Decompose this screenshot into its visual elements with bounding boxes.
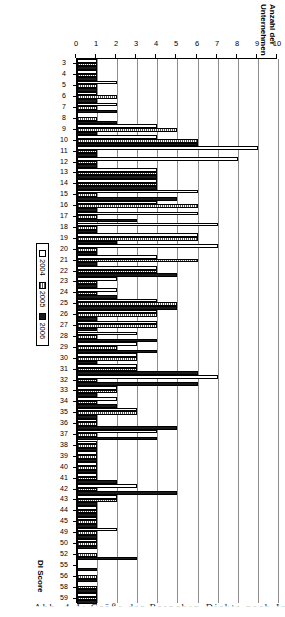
bar-2004-18 (77, 223, 218, 227)
y-tick-label: 1 (88, 40, 104, 48)
x-tick-label: 33 (56, 386, 72, 394)
bar-group (77, 70, 277, 81)
x-tick-mark (73, 380, 76, 381)
x-tick-mark (73, 576, 76, 577)
x-tick-mark (73, 205, 76, 206)
x-tick-label: 26 (56, 310, 72, 318)
chart-legend: 200420052006 (36, 243, 49, 346)
bar-group (77, 103, 277, 114)
x-tick-mark (73, 445, 76, 446)
y-tick-label: 6 (189, 40, 205, 48)
bar-group (77, 550, 277, 561)
x-tick-label: 16 (56, 201, 72, 209)
bar-group (77, 484, 277, 495)
bar-group (77, 59, 277, 70)
bar-group (77, 353, 277, 364)
x-tick-label: 9 (56, 125, 72, 133)
x-tick-mark (73, 554, 76, 555)
bar-group (77, 223, 277, 234)
y-tick-label: 4 (148, 40, 164, 48)
legend-item-2005: 2005 (38, 282, 47, 308)
x-tick-mark (73, 74, 76, 75)
x-tick-mark (73, 325, 76, 326)
bar-group (77, 114, 277, 125)
bar-group (77, 408, 277, 419)
x-tick-mark (73, 347, 76, 348)
legend-swatch-2005 (39, 282, 46, 289)
x-tick-mark (73, 63, 76, 64)
x-tick-mark (73, 314, 76, 315)
legend-label-2004: 2004 (38, 259, 47, 276)
y-tick-mark (236, 54, 237, 58)
x-tick-mark (73, 194, 76, 195)
legend-swatch-2006 (39, 313, 46, 320)
x-tick-mark (73, 162, 76, 163)
x-tick-label: 52 (56, 550, 72, 558)
x-tick-mark (73, 587, 76, 588)
x-tick-label: 21 (56, 256, 72, 264)
bar-group (77, 430, 277, 441)
x-tick-label: 49 (56, 528, 72, 536)
bar-group (77, 288, 277, 299)
x-tick-mark (73, 238, 76, 239)
bar-group (77, 560, 277, 571)
x-tick-label: 58 (56, 583, 72, 591)
x-tick-mark (73, 303, 76, 304)
x-tick-mark (73, 390, 76, 391)
x-tick-label: 6 (56, 92, 72, 100)
bar-group (77, 92, 277, 103)
bar-group (77, 571, 277, 582)
x-tick-mark (73, 521, 76, 522)
bar-group (77, 539, 277, 550)
x-tick-mark (73, 423, 76, 424)
x-tick-label: 20 (56, 245, 72, 253)
legend-item-2006: 2006 (38, 313, 47, 339)
bar-group (77, 201, 277, 212)
x-tick-mark (73, 172, 76, 173)
gridline (278, 59, 279, 603)
x-tick-label: 31 (56, 365, 72, 373)
x-tick-label: 12 (56, 158, 72, 166)
x-tick-mark (73, 358, 76, 359)
x-tick-label: 24 (56, 288, 72, 296)
plot-area (76, 58, 277, 603)
x-tick-mark (73, 260, 76, 261)
bar-group (77, 397, 277, 408)
x-tick-label: 56 (56, 572, 72, 580)
x-tick-label: 4 (56, 70, 72, 78)
bar-group (77, 168, 277, 179)
bar-group (77, 321, 277, 332)
y-axis-title: Anzahl der Unternehmen (259, 4, 277, 56)
bar-group (77, 179, 277, 190)
bar-group (77, 473, 277, 484)
bar-group (77, 506, 277, 517)
bar-group (77, 190, 277, 201)
x-tick-label: 45 (56, 517, 72, 525)
x-tick-label: 8 (56, 114, 72, 122)
x-tick-label: 55 (56, 561, 72, 569)
figure-caption: Abb. 4-1: Größe der Branchen-Dickte nach… (0, 601, 285, 617)
x-tick-mark (73, 401, 76, 402)
bar-group (77, 441, 277, 452)
bar-group (77, 375, 277, 386)
x-tick-mark (73, 532, 76, 533)
x-tick-mark (73, 369, 76, 370)
x-tick-label: 35 (56, 408, 72, 416)
x-tick-mark (73, 151, 76, 152)
x-tick-mark (73, 118, 76, 119)
y-tick-label: 5 (169, 40, 185, 48)
bar-group (77, 212, 277, 223)
x-tick-mark (73, 183, 76, 184)
bar-group (77, 582, 277, 593)
x-tick-mark (73, 292, 76, 293)
x-tick-label: 22 (56, 267, 72, 275)
x-tick-label: 18 (56, 223, 72, 231)
x-tick-label: 37 (56, 430, 72, 438)
legend-item-2004: 2004 (38, 250, 47, 276)
x-tick-mark (73, 129, 76, 130)
y-tick-mark (196, 54, 197, 58)
x-tick-label: 10 (56, 136, 72, 144)
x-tick-label: 17 (56, 212, 72, 220)
x-tick-mark (73, 336, 76, 337)
y-tick-mark (176, 54, 177, 58)
